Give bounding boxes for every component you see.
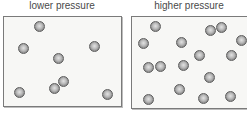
- gas-particle: [174, 84, 185, 95]
- gas-particle: [205, 25, 216, 36]
- gas-particle: [58, 76, 69, 87]
- gas-particle: [143, 62, 154, 73]
- gas-particle: [53, 53, 64, 64]
- lower-pressure-label: lower pressure: [3, 0, 121, 11]
- gas-particle: [18, 43, 29, 54]
- gas-particle: [225, 91, 236, 102]
- gas-particle: [204, 72, 215, 83]
- gas-particle: [150, 21, 161, 32]
- gas-particle: [236, 35, 247, 46]
- higher-pressure-label: higher pressure: [131, 0, 247, 11]
- gas-particle: [138, 38, 149, 49]
- gas-particle: [176, 37, 187, 48]
- gas-particle: [102, 89, 113, 100]
- gas-particle: [216, 22, 227, 33]
- gas-particle: [198, 93, 209, 104]
- gas-particle: [143, 94, 154, 105]
- gas-particle: [178, 60, 189, 71]
- gas-particle: [34, 21, 45, 32]
- gas-particle: [14, 87, 25, 98]
- gas-particle: [89, 41, 100, 52]
- gas-particle: [49, 83, 60, 94]
- gas-particle: [155, 61, 166, 72]
- gas-particle: [194, 50, 205, 61]
- gas-particle: [226, 50, 237, 61]
